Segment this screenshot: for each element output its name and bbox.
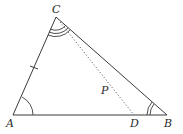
triangle-diagram: C A D B P xyxy=(0,0,183,134)
label-p: P xyxy=(101,85,108,96)
label-a: A xyxy=(6,118,14,129)
label-d: D xyxy=(130,118,139,129)
label-b: B xyxy=(164,118,172,129)
angle-arc-b-2 xyxy=(150,104,154,115)
angle-arc-c-2 xyxy=(49,28,68,34)
side-bc xyxy=(56,17,167,115)
diagram-canvas xyxy=(0,0,183,134)
label-c: C xyxy=(52,4,60,15)
angle-arc-a xyxy=(22,97,33,115)
segment-cd-dotted xyxy=(60,22,134,115)
side-ca xyxy=(13,17,56,115)
